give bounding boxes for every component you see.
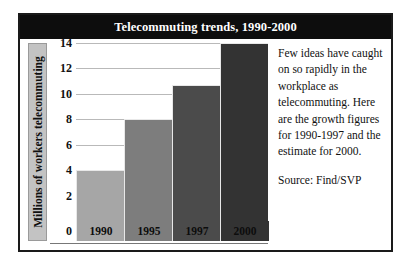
x-axis-tick-label: 2000: [234, 225, 257, 237]
x-axis-tick-2000: 2000: [220, 221, 269, 241]
plot-area: [76, 43, 268, 221]
x-axis-tick-label: 1997: [186, 225, 209, 237]
y-axis-tick-label: 8: [66, 113, 72, 125]
bars-layer: [76, 43, 268, 221]
y-axis-tick-label: 2: [66, 190, 72, 202]
bar-fill: [124, 119, 172, 221]
y-axis-title-strip: Millions of workers telecommuting: [28, 43, 47, 241]
y-axis-tick-label: 12: [60, 62, 72, 74]
y-axis-tick-label: 6: [66, 139, 72, 151]
x-axis-tick-1997: 1997: [172, 221, 221, 241]
y-axis-tick-label: 10: [60, 88, 72, 100]
y-axis-zero-label: 0: [66, 224, 72, 239]
bar-2000: [220, 43, 268, 221]
x-axis-tick-label: 1995: [138, 225, 161, 237]
y-axis-ticks: 2468101214: [50, 43, 72, 221]
x-axis-labels: 1990199519972000: [76, 221, 268, 241]
bar-1995: [124, 119, 172, 221]
x-axis-tick-1990: 1990: [76, 221, 125, 241]
caption-source: Source: Find/SVP: [278, 174, 384, 186]
x-axis-tick-1995: 1995: [124, 221, 173, 241]
x-axis-tick-label: 1990: [90, 225, 113, 237]
bar-fill: [172, 85, 220, 221]
bar-fill: [220, 43, 268, 221]
y-axis-title: Millions of workers telecommuting: [32, 56, 44, 228]
axis-baseline: [50, 243, 268, 244]
bar-1990: [76, 170, 124, 221]
caption-panel: Few ideas have caught on so rapidly in t…: [278, 45, 384, 186]
bar-fill: [76, 170, 124, 221]
caption-text: Few ideas have caught on so rapidly in t…: [278, 45, 384, 160]
chart-figure: Telecommuting trends, 1990-2000 Millions…: [18, 13, 393, 252]
y-axis-tick-label: 4: [66, 164, 72, 176]
chart-title: Telecommuting trends, 1990-2000: [114, 20, 297, 35]
figure-body: Millions of workers telecommuting 246810…: [20, 39, 391, 250]
plot-region: 2468101214 0 1990199519972000: [50, 43, 268, 245]
y-axis-zero-tick: 0: [50, 221, 72, 241]
y-axis-tick-label: 14: [60, 37, 72, 49]
chart-title-band: Telecommuting trends, 1990-2000: [20, 15, 391, 39]
bar-1997: [172, 85, 220, 221]
